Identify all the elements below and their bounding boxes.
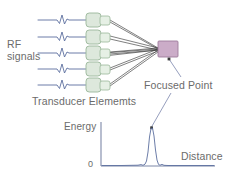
focused-point-marker [158, 41, 178, 57]
rf-signals-label-line2: signals [7, 51, 40, 63]
energy-axis-label: Energy [64, 121, 96, 132]
rf-signal-lines [38, 15, 86, 89]
ray [110, 20, 158, 48]
transducer-element [86, 78, 110, 92]
transducer-elements-label: Transducer Elememts [32, 96, 136, 108]
rf-signal-line [38, 80, 86, 89]
ray [110, 36, 158, 48]
rf-signal-line [38, 48, 86, 57]
focused-point-label: Focused Point [144, 80, 212, 92]
element-connector [100, 16, 110, 25]
rf-signals-label-line1: RF [7, 39, 40, 51]
element-body [86, 62, 101, 76]
element-connector [100, 33, 110, 42]
rf-signals-label: RF signals [7, 39, 40, 63]
rf-signal-line [38, 15, 86, 24]
ray [110, 22, 158, 49]
transducer-element [86, 62, 110, 76]
element-body [86, 46, 101, 60]
distance-axis-label: Distance [181, 151, 223, 163]
leader-lines [150, 58, 181, 130]
element-body [86, 13, 101, 27]
rf-signal-line [38, 32, 86, 41]
leader-line-label-to-peak [152, 93, 172, 127]
beamforming-rays [104, 20, 158, 86]
y-axis-zero-tick: 0 [88, 159, 93, 169]
rf-signal-line [38, 64, 86, 73]
element-connector [100, 81, 110, 90]
leader-line-focus-to-label [169, 59, 181, 77]
leader-dot [168, 58, 171, 61]
transducer-element [86, 46, 110, 60]
transducer-element-array [86, 13, 110, 92]
element-body [86, 30, 101, 44]
ray [110, 48, 158, 52]
transducer-element [86, 13, 110, 27]
element-connector [100, 65, 110, 74]
element-body [86, 78, 101, 92]
element-connector [100, 49, 110, 58]
focused-ultrasound-diagram: RF signals Transducer Elememts Focused P… [0, 0, 227, 180]
transducer-element [86, 30, 110, 44]
